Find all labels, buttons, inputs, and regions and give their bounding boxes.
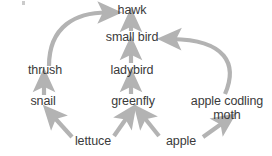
arrow-apple-to-moth [203,122,224,137]
food-web-diagram: hawk small bird ladybird thrush snail gr… [0,0,272,156]
node-apple: apple [160,135,202,148]
node-ladybird: ladybird [106,64,158,77]
node-greenfly: greenfly [106,95,160,108]
arrow-lettuce-to-greenfly [114,116,128,136]
arrow-layer [0,0,272,156]
node-small-bird: small bird [100,31,164,44]
node-thrush: thrush [22,64,68,77]
arrow-thrush-to-hawk [49,13,107,67]
node-apple-codling-moth: apple codling moth [186,95,268,122]
arrow-lettuce-to-snail [53,116,72,137]
arrow-apple-to-greenfly [143,116,159,136]
node-lettuce: lettuce [68,135,118,148]
node-snail: snail [22,95,64,108]
arrow-moth-to-smallbird [172,39,230,94]
node-hawk: hawk [112,4,152,17]
